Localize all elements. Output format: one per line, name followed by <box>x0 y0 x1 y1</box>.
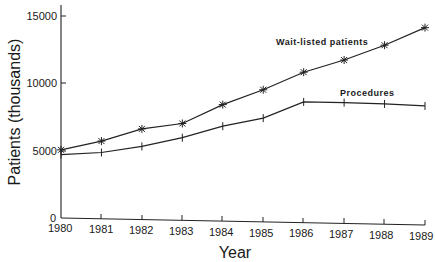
asterisk-marker-icon <box>381 41 389 49</box>
x-axis <box>61 218 425 225</box>
x-tick-label: 1980 <box>48 222 72 234</box>
x-tick-label: 1982 <box>129 224 153 236</box>
asterisk-marker-icon <box>219 101 227 109</box>
asterisk-marker-icon <box>138 125 146 133</box>
x-tick-label: 1984 <box>209 226 233 238</box>
x-tick-label: 1988 <box>369 229 393 241</box>
asterisk-marker-icon <box>300 68 308 76</box>
asterisk-marker-icon <box>178 120 186 128</box>
asterisk-marker-icon <box>340 56 348 64</box>
y-ticks <box>61 16 66 151</box>
series-line-procedures <box>61 102 425 155</box>
line-chart: 15000 10000 5000 0 1980 1981 1982 1983 1… <box>0 0 436 262</box>
x-tick-label: 1983 <box>169 225 193 237</box>
y-tick-label: 10000 <box>26 77 57 89</box>
x-tick-label: 1989 <box>409 230 433 242</box>
x-tick-label: 1986 <box>289 227 313 239</box>
x-tick-label: 1985 <box>249 227 273 239</box>
series-label-wait-listed: Wait-listed patients <box>276 37 368 47</box>
y-tick-label: 5000 <box>33 145 57 157</box>
y-axis-title: Patients (thousands) <box>6 39 23 186</box>
asterisk-marker-icon <box>97 137 105 145</box>
x-axis-title: Year <box>219 244 252 261</box>
x-tick-label: 1987 <box>329 228 353 240</box>
x-tick-label: 1981 <box>89 223 113 235</box>
y-tick-label: 15000 <box>26 10 57 22</box>
asterisk-marker-icon <box>421 24 429 32</box>
series-label-procedures: Procedures <box>340 88 395 98</box>
asterisk-marker-icon <box>259 86 267 94</box>
